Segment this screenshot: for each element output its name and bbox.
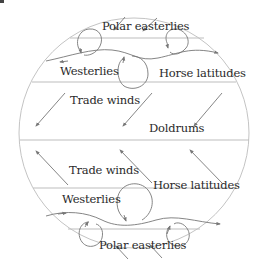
north-trade-arrow-1: [36, 93, 65, 126]
label-north-trade-winds: Trade winds: [70, 95, 140, 107]
label-doldrums: Doldrums: [149, 123, 204, 135]
globe-drawing: [0, 0, 266, 267]
south-trade-arrow-1: [36, 151, 68, 185]
south-horse-cell: [117, 184, 152, 220]
north-westerlies-flow: [46, 50, 218, 61]
label-south-horse-latitudes: Horse latitudes: [153, 180, 240, 192]
label-north-westerlies: Westerlies: [60, 66, 119, 78]
wind-belts-diagram: Polar easterlies Westerlies Horse latitu…: [0, 0, 266, 267]
label-south-westerlies: Westerlies: [62, 194, 121, 206]
label-south-trade-winds: Trade winds: [69, 165, 139, 177]
label-north-polar-easterlies: Polar easterlies: [102, 21, 189, 33]
north-horse-cell: [118, 56, 148, 88]
label-north-horse-latitudes: Horse latitudes: [159, 68, 246, 80]
label-south-polar-easterlies: Polar easterlies: [99, 240, 186, 252]
south-westerlies-flow: [46, 213, 220, 226]
